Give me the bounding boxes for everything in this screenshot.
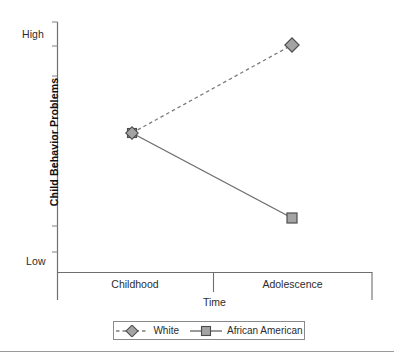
x-axis-category-childhood: Childhood [57, 278, 213, 290]
page-bottom-rule [0, 351, 394, 352]
x-axis-category-adolescence: Adolescence [213, 278, 372, 290]
legend-entry-white: White [115, 325, 179, 337]
y-axis-low-label: Low [26, 255, 46, 267]
x-axis-title: Time [57, 296, 372, 308]
series-line-african-american [132, 133, 292, 218]
legend-label-african-american: African American [227, 325, 303, 336]
legend-label-white: White [153, 325, 179, 336]
legend-entry-african-american: African American [189, 325, 303, 337]
data-point-african-american-adolescence [287, 213, 297, 223]
y-axis-high-label: High [22, 28, 44, 40]
diamond-marker-icon [115, 325, 149, 337]
data-point-white-adolescence [285, 38, 299, 52]
figure-container: High Low Child Behavior Problems Childho… [0, 0, 394, 360]
chart-legend: White African American [113, 321, 305, 340]
series-line-white [132, 45, 292, 133]
y-axis-title: Child Behavior Problems [48, 52, 60, 232]
square-marker-icon [189, 325, 223, 337]
